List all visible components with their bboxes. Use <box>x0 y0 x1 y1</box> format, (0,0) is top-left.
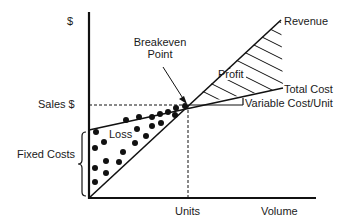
total-cost-line <box>89 88 283 130</box>
y-axis-label: $ <box>67 15 73 27</box>
loss-label: Loss <box>109 128 133 140</box>
units-label: Units <box>175 205 201 217</box>
x-axis-label: Volume <box>261 205 298 217</box>
variable-cost-label: Variable Cost/Unit <box>245 97 333 109</box>
breakeven-diagram: $ Breakeven Point Sales $ Fixed Costs Lo… <box>0 0 347 223</box>
fixed-costs-label: Fixed Costs <box>17 148 76 160</box>
breakeven-label-line1: Breakeven <box>134 36 187 48</box>
breakeven-label-line2: Point <box>147 48 172 60</box>
profit-label: Profit <box>218 68 244 80</box>
breakeven-arrow <box>163 67 184 100</box>
fixed-costs-brace <box>78 132 86 196</box>
sales-label: Sales $ <box>38 98 75 110</box>
arrowhead-icon <box>179 96 187 104</box>
revenue-label: Revenue <box>284 15 328 27</box>
total-cost-label: Total Cost <box>284 83 333 95</box>
loss-dots <box>92 103 188 185</box>
